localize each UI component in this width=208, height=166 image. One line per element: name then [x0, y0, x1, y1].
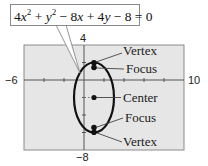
focus-bottom-label: Focus	[125, 110, 156, 125]
x-max-label: 10	[188, 74, 200, 86]
vertex-bottom-point	[91, 129, 97, 135]
center-label: Center	[123, 90, 158, 105]
focus-top-point	[91, 65, 97, 71]
equation-label: 4x2 + y2 − 8x + 4y − 8 = 0	[14, 7, 153, 25]
center-point	[91, 95, 96, 100]
focus-top-label: Focus	[126, 61, 157, 76]
x-min-label: −6	[5, 74, 18, 86]
vertex-bottom-label: Vertex	[123, 134, 157, 149]
y-max-label: 4	[80, 32, 86, 44]
y-min-label: −8	[76, 151, 89, 163]
vertex-top-label: Vertex	[123, 43, 157, 58]
